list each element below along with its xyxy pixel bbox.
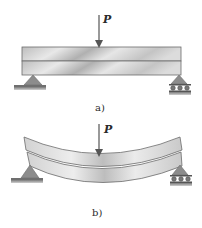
beam-bent <box>24 137 182 183</box>
beam-bending-figure: P a) P <box>0 0 202 228</box>
beam-straight <box>22 47 181 75</box>
panel-a: P a) <box>14 13 191 113</box>
roller-support-icon <box>169 75 191 95</box>
panel-b: P b) <box>11 123 192 218</box>
beam-top-layer <box>22 47 181 61</box>
load-label: P <box>102 13 112 26</box>
panel-b-caption: b) <box>92 207 102 218</box>
panel-a-caption: a) <box>95 102 105 113</box>
load-arrow-icon <box>95 124 103 157</box>
load-label: P <box>103 123 113 136</box>
load-arrow-icon <box>95 15 103 48</box>
pin-support-icon <box>14 75 46 90</box>
beam-bottom-layer <box>22 61 181 75</box>
